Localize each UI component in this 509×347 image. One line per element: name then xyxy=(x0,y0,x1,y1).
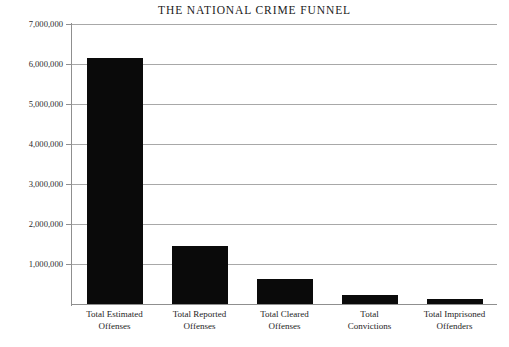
y-axis-tick-label: 1,000,000 xyxy=(0,259,63,269)
y-axis-tick-label: 2,000,000 xyxy=(0,219,63,229)
x-axis-tick-label-line: Offenses xyxy=(242,321,327,333)
bar[interactable] xyxy=(427,299,483,304)
x-axis-tick-label-line: Offenses xyxy=(72,321,157,333)
x-axis-tick-label-line: Offenders xyxy=(412,321,497,333)
axis-baseline xyxy=(72,304,497,305)
y-axis-tick-label: 4,000,000 xyxy=(0,139,63,149)
chart-figure: THE NATIONAL CRIME FUNNEL 7,000,0006,000… xyxy=(0,0,509,347)
x-axis-tick-label-line: Offenses xyxy=(157,321,242,333)
y-axis-tick-label: 6,000,000 xyxy=(0,59,63,69)
plot-area xyxy=(72,24,497,304)
x-axis-tick-label-line: Convictions xyxy=(327,321,412,333)
gridline xyxy=(72,24,497,25)
x-axis-tick-label: Total ImprisonedOffenders xyxy=(412,309,497,332)
x-axis-tick-label-line: Total Reported xyxy=(157,309,242,321)
bar[interactable] xyxy=(342,295,398,304)
bar[interactable] xyxy=(172,246,228,304)
x-axis-tick-label: TotalConvictions xyxy=(327,309,412,332)
chart-title: THE NATIONAL CRIME FUNNEL xyxy=(0,4,509,16)
y-axis-tick-label: 3,000,000 xyxy=(0,179,63,189)
bar[interactable] xyxy=(87,58,143,304)
x-axis-tick-label-line: Total Estimated xyxy=(72,309,157,321)
y-axis-tick-label: 5,000,000 xyxy=(0,99,63,109)
x-axis-tick-label-line: Total Imprisoned xyxy=(412,309,497,321)
x-axis-tick-label: Total ClearedOffenses xyxy=(242,309,327,332)
x-axis-tick-label: Total ReportedOffenses xyxy=(157,309,242,332)
y-axis-tick-label: 7,000,000 xyxy=(0,19,63,29)
bar[interactable] xyxy=(257,279,313,304)
x-axis-tick-label-line: Total xyxy=(327,309,412,321)
x-axis-tick-label-line: Total Cleared xyxy=(242,309,327,321)
x-axis-tick-label: Total EstimatedOffenses xyxy=(72,309,157,332)
